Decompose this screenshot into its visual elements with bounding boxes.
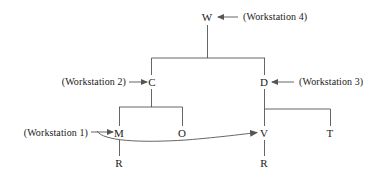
node-label-t: T	[327, 128, 334, 139]
annotation-workstation-2: (Workstation 2)	[62, 77, 126, 87]
annotation-workstation-4: (Workstation 4)	[243, 12, 307, 22]
diagram-lines	[0, 0, 384, 184]
node-label-r-right: R	[260, 158, 268, 169]
node-label-r-left: R	[115, 158, 123, 169]
node-label-c: C	[148, 77, 156, 88]
annotation-workstation-1: (Workstation 1)	[24, 128, 88, 138]
node-label-m: M	[114, 128, 124, 139]
node-label-v: V	[260, 128, 268, 139]
node-label-w: W	[202, 12, 213, 23]
node-label-o: O	[178, 128, 186, 139]
diagram-canvas: W C D M O V T R R (Workstation 4) (Works…	[0, 0, 384, 184]
node-label-d: D	[260, 77, 268, 88]
annotation-workstation-3: (Workstation 3)	[299, 77, 363, 87]
